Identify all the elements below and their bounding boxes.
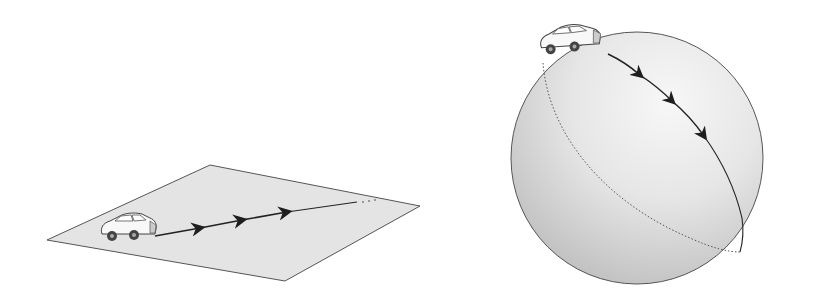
flat-plane-panel: [47, 165, 420, 281]
sphere: [511, 32, 763, 284]
sphere-panel: [511, 23, 763, 284]
flat-plane: [47, 165, 420, 281]
diagram-canvas: [0, 0, 813, 298]
